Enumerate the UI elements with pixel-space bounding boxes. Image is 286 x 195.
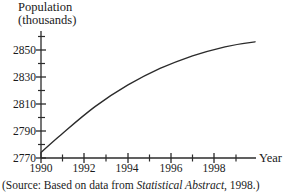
source-prefix: (Source: Based on data from xyxy=(2,179,136,191)
source-note: (Source: Based on data from Statistical … xyxy=(2,179,260,191)
population-curve xyxy=(41,42,255,153)
source-suffix: , 1998.) xyxy=(224,179,259,191)
source-italic-title: Statistical Abstract xyxy=(136,179,224,191)
population-line-chart: Population (thousands) Year 2850 2830 28… xyxy=(0,0,286,195)
plot-area xyxy=(0,0,286,195)
